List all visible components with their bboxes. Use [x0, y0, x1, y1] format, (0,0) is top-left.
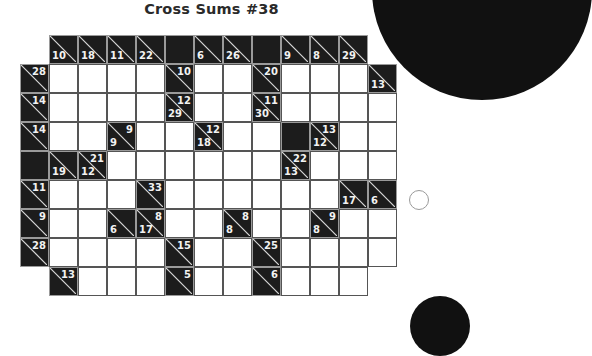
- entry-cell[interactable]: [223, 267, 252, 296]
- clue-cell: 33: [136, 180, 165, 209]
- clue-cell: 10: [49, 35, 78, 64]
- entry-cell[interactable]: [78, 122, 107, 151]
- entry-cell[interactable]: [310, 238, 339, 267]
- clue-cell: 5: [165, 267, 194, 296]
- clue-cell: 11: [107, 35, 136, 64]
- entry-cell[interactable]: [78, 93, 107, 122]
- entry-cell[interactable]: [194, 267, 223, 296]
- entry-cell[interactable]: [49, 209, 78, 238]
- entry-cell[interactable]: [107, 64, 136, 93]
- clue-cell: 15: [165, 238, 194, 267]
- entry-cell[interactable]: [281, 180, 310, 209]
- down-clue-number: 10: [52, 51, 66, 61]
- entry-cell[interactable]: [194, 180, 223, 209]
- entry-cell[interactable]: [136, 267, 165, 296]
- across-clue-number: 12: [206, 125, 220, 135]
- entry-cell[interactable]: [281, 238, 310, 267]
- entry-cell[interactable]: [310, 93, 339, 122]
- entry-cell[interactable]: [310, 151, 339, 180]
- entry-cell[interactable]: [339, 209, 368, 238]
- entry-cell[interactable]: [78, 209, 107, 238]
- entry-cell[interactable]: [78, 180, 107, 209]
- entry-cell[interactable]: [136, 93, 165, 122]
- entry-cell[interactable]: [281, 93, 310, 122]
- entry-cell[interactable]: [339, 93, 368, 122]
- entry-cell[interactable]: [281, 267, 310, 296]
- entry-cell[interactable]: [194, 64, 223, 93]
- entry-cell[interactable]: [107, 93, 136, 122]
- clue-cell: 10: [165, 64, 194, 93]
- entry-cell[interactable]: [49, 93, 78, 122]
- entry-cell[interactable]: [107, 180, 136, 209]
- entry-cell[interactable]: [252, 151, 281, 180]
- entry-cell[interactable]: [78, 267, 107, 296]
- entry-cell[interactable]: [107, 238, 136, 267]
- entry-cell[interactable]: [368, 238, 397, 267]
- entry-cell[interactable]: [310, 180, 339, 209]
- across-clue-number: 11: [264, 96, 278, 106]
- entry-cell[interactable]: [49, 122, 78, 151]
- down-clue-number: 6: [197, 51, 204, 61]
- entry-cell[interactable]: [194, 209, 223, 238]
- entry-cell[interactable]: [107, 151, 136, 180]
- entry-cell[interactable]: [49, 180, 78, 209]
- binder-hole-icon: [409, 190, 429, 210]
- entry-cell[interactable]: [165, 209, 194, 238]
- clue-cell: 8: [310, 35, 339, 64]
- entry-cell[interactable]: [252, 209, 281, 238]
- clue-cell: 14: [20, 122, 49, 151]
- down-clue-number: 12: [313, 138, 327, 148]
- entry-cell[interactable]: [368, 93, 397, 122]
- down-clue-number: 9: [110, 138, 117, 148]
- entry-cell[interactable]: [136, 151, 165, 180]
- entry-cell[interactable]: [194, 238, 223, 267]
- entry-cell[interactable]: [165, 180, 194, 209]
- entry-cell[interactable]: [107, 267, 136, 296]
- across-clue-number: 10: [177, 67, 191, 77]
- entry-cell[interactable]: [281, 64, 310, 93]
- entry-cell[interactable]: [223, 64, 252, 93]
- entry-cell[interactable]: [339, 151, 368, 180]
- entry-cell[interactable]: [368, 209, 397, 238]
- entry-cell[interactable]: [223, 238, 252, 267]
- across-clue-number: 8: [242, 212, 249, 222]
- entry-cell[interactable]: [252, 122, 281, 151]
- across-clue-number: 14: [32, 96, 46, 106]
- entry-cell[interactable]: [252, 180, 281, 209]
- entry-cell[interactable]: [136, 238, 165, 267]
- across-clue-number: 12: [177, 96, 191, 106]
- entry-cell[interactable]: [165, 151, 194, 180]
- entry-cell[interactable]: [223, 151, 252, 180]
- clue-cell: 17: [339, 180, 368, 209]
- entry-cell[interactable]: [339, 122, 368, 151]
- entry-cell[interactable]: [310, 64, 339, 93]
- clue-cell: 29: [339, 35, 368, 64]
- clue-cell: 25: [252, 238, 281, 267]
- entry-cell[interactable]: [339, 267, 368, 296]
- entry-cell[interactable]: [339, 238, 368, 267]
- down-clue-number: 6: [371, 196, 378, 206]
- entry-cell[interactable]: [223, 122, 252, 151]
- puzzle-title: Cross Sums #38: [0, 1, 423, 17]
- entry-cell[interactable]: [368, 151, 397, 180]
- entry-cell[interactable]: [368, 122, 397, 151]
- entry-cell[interactable]: [194, 151, 223, 180]
- down-clue-number: 9: [284, 51, 291, 61]
- entry-cell[interactable]: [223, 93, 252, 122]
- entry-cell[interactable]: [194, 93, 223, 122]
- clue-cell: 28: [20, 238, 49, 267]
- down-clue-number: 8: [226, 225, 233, 235]
- entry-cell[interactable]: [165, 122, 194, 151]
- clue-cell: 1229: [165, 93, 194, 122]
- entry-cell[interactable]: [78, 64, 107, 93]
- entry-cell[interactable]: [339, 64, 368, 93]
- entry-cell[interactable]: [310, 267, 339, 296]
- entry-cell[interactable]: [78, 238, 107, 267]
- entry-cell[interactable]: [281, 209, 310, 238]
- entry-cell[interactable]: [223, 180, 252, 209]
- entry-cell[interactable]: [136, 122, 165, 151]
- entry-cell[interactable]: [136, 64, 165, 93]
- entry-cell[interactable]: [49, 64, 78, 93]
- clue-cell: 99: [107, 122, 136, 151]
- entry-cell[interactable]: [49, 238, 78, 267]
